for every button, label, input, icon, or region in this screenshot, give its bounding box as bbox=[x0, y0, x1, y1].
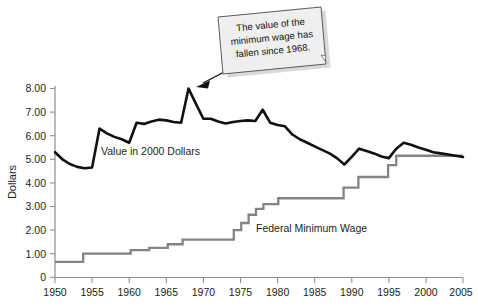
x-tick-labels: 1950 1955 1960 1965 1970 1975 1980 1985 … bbox=[43, 286, 473, 298]
x-tick-label-1965: 1965 bbox=[155, 286, 179, 298]
series-label-value-in-2000-dollars: Value in 2000 Dollars bbox=[101, 145, 200, 157]
x-tick-label-2005: 2005 bbox=[449, 286, 473, 298]
x-tick-label-1975: 1975 bbox=[229, 286, 253, 298]
minimum-wage-chart: 8.00 7.00 6.00 5.00 4.00 3.00 2.00 1.00 … bbox=[0, 0, 478, 308]
callout-note-text-group: The value of the minimum wage has fallen… bbox=[229, 15, 315, 60]
y-tick-label-1: 1.00 bbox=[26, 248, 47, 260]
y-tick-label-6: 6.00 bbox=[26, 130, 47, 142]
x-tick-label-1990: 1990 bbox=[340, 286, 364, 298]
callout-arrow-head bbox=[196, 81, 210, 89]
y-tick-label-0: 0 bbox=[40, 271, 46, 283]
x-tick-label-1960: 1960 bbox=[118, 286, 142, 298]
y-tick-label-3: 3.00 bbox=[26, 200, 47, 212]
y-tick-label-8: 8.00 bbox=[26, 82, 47, 94]
series-label-federal-minimum-wage: Federal Minimum Wage bbox=[256, 222, 367, 234]
y-tick-label-5: 5.00 bbox=[26, 153, 47, 165]
x-tick-label-1980: 1980 bbox=[266, 286, 290, 298]
y-tick-labels: 8.00 7.00 6.00 5.00 4.00 3.00 2.00 1.00 … bbox=[26, 82, 47, 283]
series-line-federal-minimum-wage bbox=[55, 156, 463, 262]
y-axis bbox=[50, 86, 55, 278]
y-axis-title: Dollars bbox=[6, 164, 18, 199]
y-tick-label-4: 4.00 bbox=[26, 177, 47, 189]
x-tick-label-2000: 2000 bbox=[414, 286, 438, 298]
callout-note: The value of the minimum wage has fallen… bbox=[218, 7, 331, 78]
x-tick-label-1995: 1995 bbox=[377, 286, 401, 298]
x-tick-label-1950: 1950 bbox=[43, 286, 67, 298]
x-tick-label-1970: 1970 bbox=[192, 286, 216, 298]
x-tick-label-1955: 1955 bbox=[80, 286, 104, 298]
y-tick-label-7: 7.00 bbox=[26, 106, 47, 118]
chart-canvas: 8.00 7.00 6.00 5.00 4.00 3.00 2.00 1.00 … bbox=[0, 0, 478, 308]
x-tick-label-1985: 1985 bbox=[303, 286, 327, 298]
y-tick-label-2: 2.00 bbox=[26, 224, 47, 236]
x-axis bbox=[55, 278, 463, 284]
